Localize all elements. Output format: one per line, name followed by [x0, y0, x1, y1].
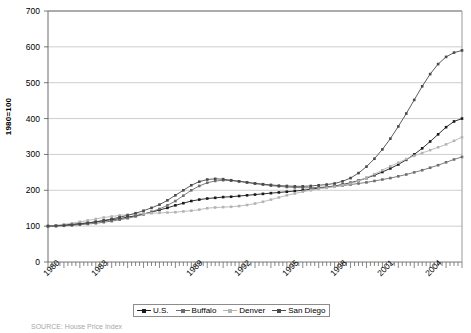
series-marker — [174, 211, 177, 214]
series-marker — [421, 85, 424, 88]
series-marker — [389, 177, 392, 180]
series-marker — [445, 161, 448, 164]
series-marker — [190, 209, 193, 212]
series-marker — [174, 204, 177, 207]
series-marker — [166, 211, 169, 214]
series-marker — [381, 178, 384, 181]
series-marker — [397, 175, 400, 178]
series-line-san-diego — [48, 50, 462, 226]
series-marker — [110, 215, 113, 218]
series-marker — [461, 49, 464, 52]
series-marker — [206, 207, 209, 210]
series-marker — [254, 182, 257, 185]
series-marker — [71, 223, 74, 226]
series-marker — [278, 196, 281, 199]
series-marker — [453, 140, 456, 143]
legend-marker-icon — [272, 307, 286, 314]
series-marker — [158, 212, 161, 215]
series-marker — [174, 194, 177, 197]
series-marker — [190, 184, 193, 187]
series-marker — [166, 204, 169, 207]
series-marker — [166, 199, 169, 202]
series-marker — [294, 185, 297, 188]
series-marker — [262, 200, 265, 203]
series-marker — [182, 194, 185, 197]
series-marker — [238, 195, 241, 198]
series-marker — [142, 212, 145, 215]
series-marker — [278, 184, 281, 187]
y-tick-400: 400 — [10, 114, 40, 124]
series-marker — [365, 181, 368, 184]
series-marker — [421, 152, 424, 155]
series-marker — [397, 125, 400, 128]
series-marker — [333, 182, 336, 185]
series-marker — [413, 155, 416, 158]
legend-item-buffalo[interactable]: Buffalo — [176, 306, 217, 315]
series-marker — [357, 182, 360, 185]
series-marker — [110, 218, 113, 221]
legend-label: Buffalo — [192, 306, 217, 315]
series-marker — [429, 140, 432, 143]
series-marker — [198, 185, 201, 188]
series-marker — [142, 209, 145, 212]
series-marker — [182, 202, 185, 205]
series-marker — [87, 222, 90, 225]
series-marker — [190, 200, 193, 203]
series-marker — [461, 117, 464, 120]
legend-label: Denver — [239, 306, 265, 315]
series-marker — [222, 196, 225, 199]
legend-marker-icon — [137, 307, 151, 314]
series-marker — [102, 219, 105, 222]
series-marker — [214, 178, 217, 181]
y-tick-100: 100 — [10, 221, 40, 231]
legend-item-denver[interactable]: Denver — [223, 306, 265, 315]
series-marker — [94, 218, 97, 221]
series-marker — [63, 224, 66, 227]
series-marker — [79, 223, 82, 226]
series-marker — [214, 206, 217, 209]
series-marker — [262, 183, 265, 186]
series-marker — [373, 180, 376, 183]
series-marker — [405, 173, 408, 176]
series-marker — [461, 156, 464, 159]
series-marker — [413, 171, 416, 174]
series-marker — [405, 158, 408, 161]
legend-marker-icon — [176, 307, 190, 314]
series-marker — [134, 215, 137, 218]
series-marker — [437, 133, 440, 136]
series-marker — [429, 166, 432, 169]
series-marker — [278, 191, 281, 194]
series-marker — [246, 204, 249, 207]
series-marker — [445, 126, 448, 129]
series-marker — [389, 137, 392, 140]
y-tick-0: 0 — [10, 257, 40, 267]
series-marker — [126, 214, 129, 217]
legend-item-san-diego[interactable]: San Diego — [272, 306, 325, 315]
series-marker — [445, 143, 448, 146]
series-marker — [206, 181, 209, 184]
series-marker — [55, 224, 58, 227]
legend-marker-icon — [223, 307, 237, 314]
series-marker — [349, 177, 352, 180]
source-note: SOURCE: House Price Index — [31, 323, 122, 330]
legend-label: San Diego — [288, 306, 325, 315]
series-marker — [230, 179, 233, 182]
series-marker — [94, 221, 97, 224]
series-marker — [206, 178, 209, 181]
series-marker — [102, 216, 105, 219]
series-marker — [365, 165, 368, 168]
chart-figure: 1980=100 0100200300400500600700 19801983… — [0, 0, 471, 333]
series-marker — [429, 73, 432, 76]
series-marker — [262, 193, 265, 196]
series-marker — [437, 146, 440, 149]
series-line-buffalo — [48, 157, 462, 226]
series-marker — [429, 149, 432, 152]
series-marker — [333, 185, 336, 188]
legend-item-u-s-[interactable]: U.S. — [137, 306, 169, 315]
series-marker — [453, 158, 456, 161]
series-marker — [222, 178, 225, 181]
series-marker — [453, 120, 456, 123]
series-marker — [158, 208, 161, 211]
series-marker — [198, 208, 201, 211]
series-marker — [325, 183, 328, 186]
